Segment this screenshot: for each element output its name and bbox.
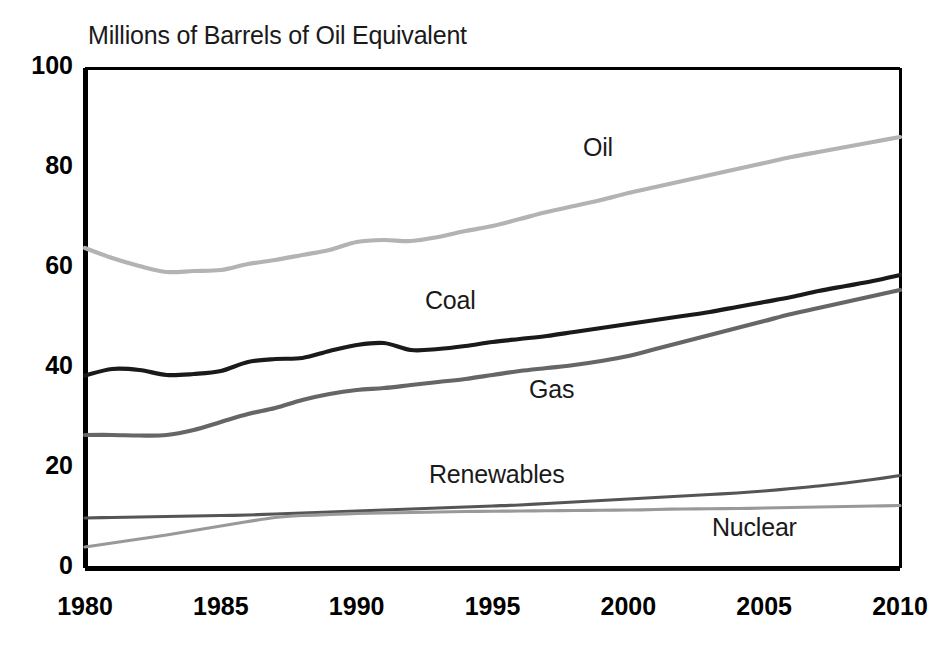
- series-line-oil: [85, 137, 900, 272]
- x-tick-1990: 1990: [329, 592, 385, 621]
- series-label-oil: Oil: [583, 133, 613, 162]
- series-label-gas: Gas: [529, 375, 574, 404]
- y-tick-80: 80: [45, 151, 73, 180]
- y-tick-60: 60: [45, 251, 73, 280]
- x-tick-2000: 2000: [601, 592, 657, 621]
- series-label-nuclear: Nuclear: [712, 513, 797, 542]
- y-tick-20: 20: [45, 451, 73, 480]
- chart-container: Millions of Barrels of Oil Equivalent 02…: [0, 0, 950, 651]
- y-tick-0: 0: [59, 551, 73, 580]
- series-label-renewables: Renewables: [429, 460, 565, 489]
- y-tick-40: 40: [45, 351, 73, 380]
- x-tick-1980: 1980: [57, 592, 113, 621]
- plot-area-svg: [0, 0, 950, 651]
- x-tick-1995: 1995: [465, 592, 521, 621]
- series-line-coal: [85, 275, 900, 376]
- series-line-gas: [85, 290, 900, 436]
- y-tick-100: 100: [31, 51, 73, 80]
- series-label-coal: Coal: [425, 286, 476, 315]
- x-tick-2005: 2005: [736, 592, 792, 621]
- x-tick-1985: 1985: [193, 592, 249, 621]
- x-tick-2010: 2010: [872, 592, 928, 621]
